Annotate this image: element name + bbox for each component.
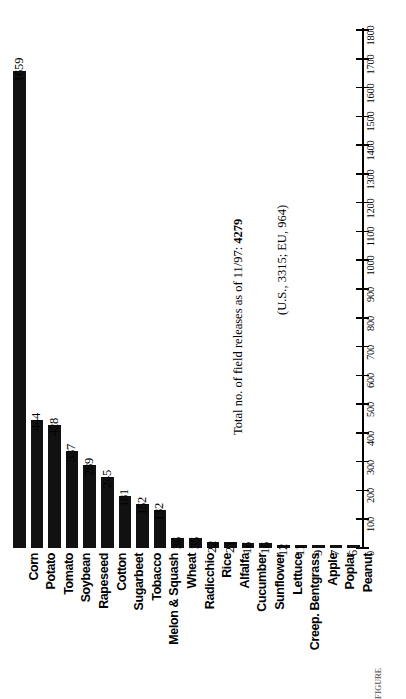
annotation-total-prefix: Total no. of field releases as of 11/97: bbox=[231, 247, 245, 435]
category-label: Melon & Squash bbox=[167, 553, 181, 645]
bar-value-label: 12 bbox=[276, 543, 291, 555]
bar-value-label: 289 bbox=[82, 458, 97, 476]
category-label: Wheat bbox=[185, 553, 199, 589]
category-label: Apple bbox=[326, 553, 340, 586]
axis-tick-label: 1700 bbox=[365, 54, 376, 74]
category-label: Alfalfa bbox=[238, 553, 252, 588]
bar bbox=[13, 71, 26, 548]
axis-tick-label: 1800 bbox=[365, 26, 376, 46]
axis-tick-label: 300 bbox=[365, 460, 376, 475]
bar bbox=[48, 425, 61, 548]
axis-tick-label: 1100 bbox=[365, 227, 376, 246]
bar-value-label: 21 bbox=[223, 541, 238, 553]
bar bbox=[347, 545, 360, 548]
category-label: Tobacco bbox=[150, 553, 164, 601]
figure-caption: FIGURE bbox=[374, 668, 383, 699]
bar-value-label: 337 bbox=[64, 444, 79, 462]
category-label: Corn bbox=[27, 553, 41, 581]
bar bbox=[83, 465, 96, 548]
figure-bar-chart: 0100200300400500600700800900100011001200… bbox=[0, 0, 406, 699]
axis-tick-label: 400 bbox=[365, 431, 376, 446]
bar-value-label: 152 bbox=[135, 497, 150, 515]
category-label: Tomato bbox=[62, 553, 76, 595]
axis-tick-label: 1400 bbox=[365, 141, 376, 161]
annotation-total-value: 4279 bbox=[231, 219, 245, 244]
bar-value-label: 1659 bbox=[12, 57, 27, 81]
category-label: Sunflower bbox=[273, 553, 287, 610]
bar-value-label: 11 bbox=[293, 544, 308, 556]
bar bbox=[101, 477, 114, 548]
bar-value-label: 35 bbox=[188, 537, 203, 549]
bar-value-label: 6 bbox=[346, 550, 361, 556]
category-label: Poplar bbox=[343, 553, 357, 590]
bar-value-label: 36 bbox=[170, 537, 185, 549]
category-label: Soybean bbox=[79, 553, 93, 602]
bar-value-label: 245 bbox=[100, 470, 115, 488]
axis-tick-label: 600 bbox=[365, 373, 376, 388]
axis-tick-label: 100 bbox=[365, 517, 376, 532]
bar-value-label: 7 bbox=[328, 550, 343, 556]
bar-value-label: 16 bbox=[258, 542, 273, 554]
axis-tick-label: 1300 bbox=[365, 169, 376, 189]
category-label: Sugarbeet bbox=[132, 553, 146, 611]
annotation-breakdown: (U.S., 3315; EU, 964) bbox=[275, 205, 290, 315]
category-label: Cucumber bbox=[255, 553, 269, 612]
bar bbox=[31, 420, 44, 548]
bar-value-label: 16 bbox=[240, 542, 255, 554]
bar bbox=[66, 451, 79, 548]
category-label: Radicchio bbox=[203, 553, 217, 609]
bar bbox=[330, 545, 343, 548]
bar-value-label: 181 bbox=[117, 489, 132, 507]
bar-value-label: 22 bbox=[205, 541, 220, 553]
bar-value-label: 132 bbox=[152, 503, 167, 521]
plot-area: 0100200300400500600700800900100011001200… bbox=[0, 0, 406, 699]
category-label: Creep. Bentgrass bbox=[308, 553, 322, 650]
axis-tick-label: 900 bbox=[365, 287, 376, 302]
bar bbox=[312, 545, 325, 548]
axis-tick-label: 500 bbox=[365, 402, 376, 417]
axis-tick-label: 800 bbox=[365, 316, 376, 331]
category-label: Rapeseed bbox=[97, 553, 111, 609]
bar-value-label: 9 bbox=[311, 550, 326, 556]
category-label: Lettuce bbox=[291, 553, 305, 595]
bar-value-label: 444 bbox=[29, 413, 44, 431]
bar-value-label: 428 bbox=[47, 418, 62, 436]
annotation-total: Total no. of field releases as of 11/97:… bbox=[231, 219, 246, 435]
category-label: Cotton bbox=[115, 553, 129, 591]
axis-tick-label: 200 bbox=[365, 489, 376, 504]
axis-tick-label: 1600 bbox=[365, 83, 376, 103]
axis-tick-label: 700 bbox=[365, 345, 376, 360]
category-label: Rice bbox=[220, 553, 234, 578]
axis-tick-label: 1500 bbox=[365, 112, 376, 132]
category-label: Peanut bbox=[361, 553, 375, 592]
axis-tick-label: 1000 bbox=[365, 256, 376, 276]
axis-tick-label: 1200 bbox=[365, 198, 376, 218]
category-label: Potato bbox=[44, 553, 58, 590]
